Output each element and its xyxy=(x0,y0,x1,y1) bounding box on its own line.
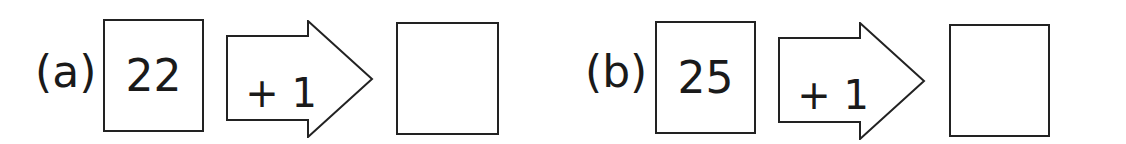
problem-label: (a) xyxy=(35,50,96,94)
input-box: 22 xyxy=(103,19,204,132)
input-box: 25 xyxy=(655,21,756,134)
answer-box[interactable] xyxy=(396,22,499,135)
answer-box[interactable] xyxy=(949,24,1050,137)
operation-arrow: + 1 xyxy=(778,22,926,140)
operation-label: + 1 xyxy=(778,75,888,115)
operation-label: + 1 xyxy=(226,73,336,113)
problem-label: (b) xyxy=(585,50,647,94)
operation-arrow: + 1 xyxy=(226,20,374,138)
